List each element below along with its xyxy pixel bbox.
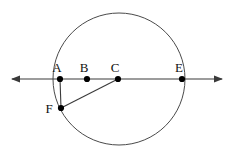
point-b	[84, 76, 90, 82]
segment-f-c	[61, 79, 118, 108]
geometry-canvas: A B C E F	[0, 0, 231, 150]
point-a	[57, 76, 63, 82]
point-c	[115, 76, 121, 82]
segment-a-f	[60, 79, 61, 108]
point-label-c: C	[111, 60, 120, 75]
arrow-right-icon	[214, 75, 223, 82]
point-label-b: B	[80, 60, 89, 75]
point-label-e: E	[175, 60, 183, 75]
arrow-left-icon	[11, 75, 20, 82]
point-label-a: A	[52, 60, 62, 75]
point-f	[58, 105, 64, 111]
point-label-f: F	[45, 101, 52, 116]
geometry-figure: A B C E F	[0, 0, 231, 150]
point-e	[179, 76, 185, 82]
